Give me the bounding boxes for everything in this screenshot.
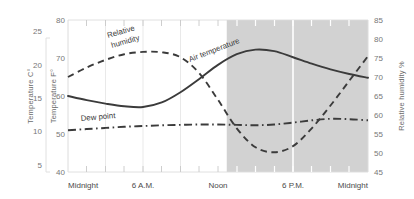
tick-label: Midnight [338, 181, 369, 190]
tick-label: 55 [374, 130, 383, 139]
tick-label: 5 [38, 161, 43, 170]
tick-label: 70 [56, 54, 65, 63]
tick-label: 85 [374, 16, 383, 25]
tick-label: Midnight [68, 181, 99, 190]
tick-label: 70 [374, 73, 383, 82]
tick-label: 25 [33, 27, 42, 36]
tick-label: 6 P.M. [282, 181, 304, 190]
tick-label: 80 [56, 16, 65, 25]
tick-label: 50 [56, 130, 65, 139]
tick-label: 6 A.M. [132, 181, 155, 190]
weather-diurnal-chart: 510152025 4050607080 455055606570758085 … [0, 0, 414, 199]
tick-label: 50 [374, 149, 383, 158]
tick-label: 60 [374, 111, 383, 120]
tick-label: 65 [374, 92, 383, 101]
tick-label: 80 [374, 35, 383, 44]
f-axis-title: Temperature F° [49, 69, 58, 124]
rh-axis-title: Relative humidity % [397, 61, 406, 131]
tick-label: 75 [374, 54, 383, 63]
shaded-region [227, 20, 368, 172]
rh-axis-tick-labels: 455055606570758085 [374, 16, 383, 177]
tick-label: Noon [208, 181, 227, 190]
tick-label: 45 [374, 168, 383, 177]
c-axis-title: Temperature C° [26, 68, 35, 123]
tick-label: 40 [56, 168, 65, 177]
x-axis-tick-labels: Midnight6 A.M.Noon6 P.M.Midnight [68, 181, 369, 190]
tick-label: 10 [33, 127, 42, 136]
